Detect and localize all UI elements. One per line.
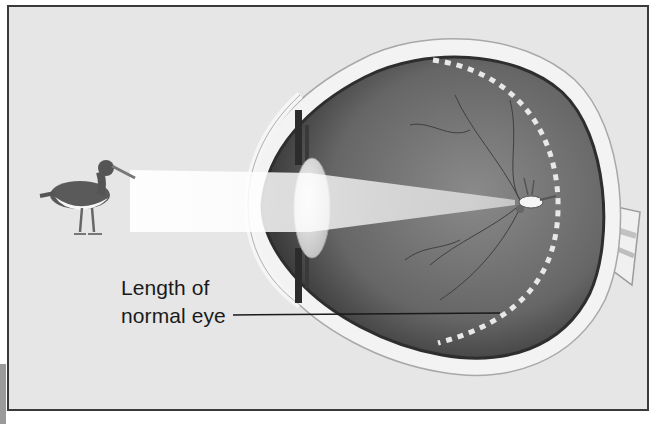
eye-diagram: [0, 0, 655, 427]
label-normal-eye: normal eye: [121, 303, 226, 328]
label-length-of: Length of: [121, 275, 209, 300]
bird-object: [40, 160, 135, 234]
